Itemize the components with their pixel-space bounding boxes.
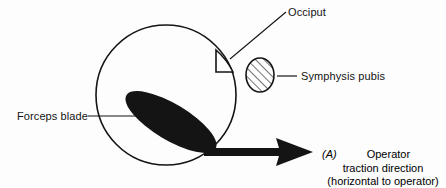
traction-caption-line-1: (A)Operator	[320, 144, 446, 162]
forceps-blade-label: Forceps blade	[17, 110, 88, 123]
forceps-traction-diagram: Occiput Symphysis pubis Forceps blade (A…	[0, 0, 446, 187]
occiput-label: Occiput	[288, 6, 326, 19]
symphysis-pubis-ellipse	[246, 58, 274, 92]
traction-arrow	[204, 138, 313, 166]
traction-qualifier-label: (horizontal to operator)	[320, 175, 446, 188]
traction-direction-caption: (A)Operator traction direction (horizont…	[320, 144, 446, 187]
occiput-leader-line	[230, 12, 286, 59]
panel-marker-label: (A)	[322, 148, 337, 160]
traction-direction-label: traction direction	[320, 162, 446, 175]
symphysis-pubis-label: Symphysis pubis	[301, 70, 385, 83]
traction-operator-label: Operator	[337, 148, 410, 160]
occiput-wedge	[216, 50, 233, 72]
